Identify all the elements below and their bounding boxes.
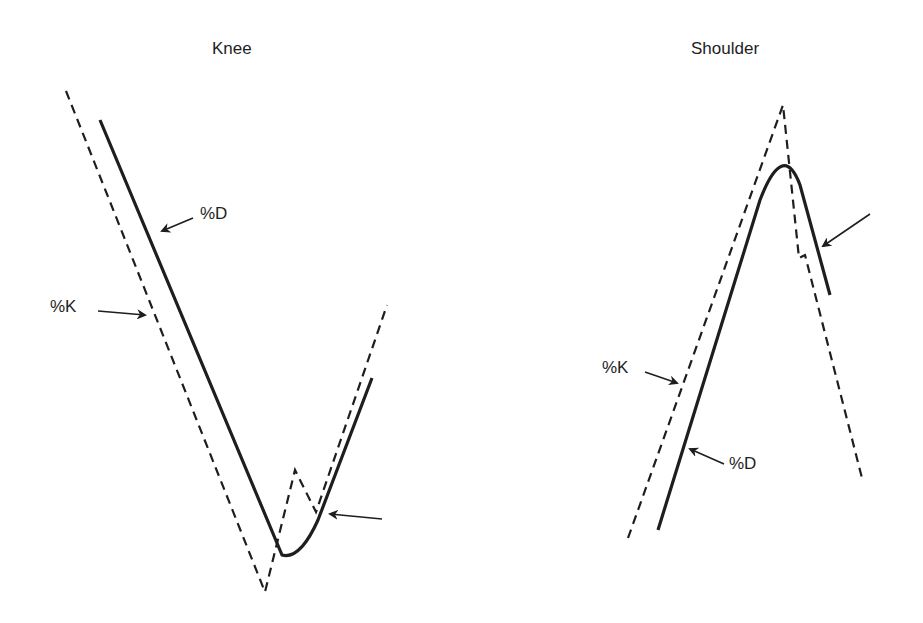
shoulder-panel <box>628 105 870 538</box>
knee-k-label: %K <box>50 298 76 315</box>
shoulder-d-solid-line <box>658 166 830 530</box>
knee-d-label: %D <box>200 205 227 222</box>
knee-k-dashed-line <box>66 91 387 592</box>
shoulder-k-dashed-line <box>628 105 862 538</box>
knee-k-arrow-icon <box>98 311 145 315</box>
shoulder-d-arrow-icon <box>690 449 724 464</box>
knee-d-solid-line <box>100 120 372 556</box>
knee-crossover-arrow-icon <box>330 514 382 519</box>
knee-title: Knee <box>212 40 252 57</box>
stochastic-knee-shoulder-diagram: Knee %D %K Shoulder %K %D <box>0 0 923 623</box>
diagram-graphics <box>0 0 923 623</box>
shoulder-d-label: %D <box>729 455 756 472</box>
shoulder-title: Shoulder <box>691 40 759 57</box>
knee-panel <box>66 91 387 592</box>
shoulder-crossover-arrow-icon <box>823 214 870 246</box>
shoulder-k-arrow-icon <box>645 372 677 383</box>
knee-d-arrow-icon <box>162 218 193 231</box>
shoulder-k-label: %K <box>602 359 628 376</box>
